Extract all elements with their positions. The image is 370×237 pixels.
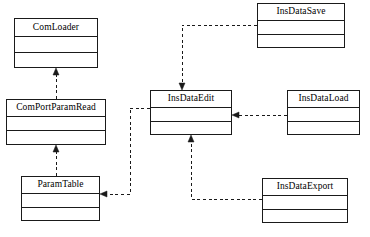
- class-name-com-loader: ComLoader: [15, 19, 97, 37]
- class-attributes-ins-data-save: [258, 21, 344, 35]
- class-operations-ins-data-edit: [151, 122, 231, 135]
- uml-class-ins-data-edit[interactable]: InsDataEdit: [150, 90, 232, 135]
- uml-class-ins-data-load[interactable]: InsDataLoad: [287, 90, 360, 135]
- class-operations-ins-data-export: [263, 210, 347, 223]
- class-name-param-table: ParamTable: [22, 177, 99, 194]
- class-name-ins-data-export: InsDataExport: [263, 179, 347, 196]
- class-operations-ins-data-save: [258, 35, 344, 48]
- class-operations-ins-data-load: [288, 122, 359, 135]
- class-name-ins-data-save: InsDataSave: [258, 4, 344, 21]
- uml-class-ins-data-export[interactable]: InsDataExport: [262, 178, 348, 223]
- uml-class-param-table[interactable]: ParamTable: [21, 176, 100, 221]
- edge-insdataedit-to-paramtable: [100, 108, 150, 197]
- edge-comportparamread-to-comloader: [53, 68, 59, 99]
- edge-insdatasave-to-insdataedit-arrowhead: [179, 83, 185, 90]
- class-operations-com-loader: [15, 53, 97, 68]
- class-attributes-ins-data-load: [288, 108, 359, 122]
- class-operations-com-port-param-read: [7, 131, 105, 144]
- edge-insdatasave-to-insdataedit: [179, 25, 257, 90]
- uml-class-diagram: ComLoaderComPortParamReadParamTableInsDa…: [0, 0, 370, 237]
- edge-paramtable-to-comportparamread-arrowhead: [53, 145, 59, 152]
- uml-class-com-port-param-read[interactable]: ComPortParamRead: [6, 99, 106, 145]
- edge-insdataexport-to-insdataedit: [188, 135, 262, 199]
- edge-insdataload-to-insdataedit-arrowhead: [232, 112, 239, 118]
- class-attributes-param-table: [22, 194, 99, 208]
- edge-insdataexport-to-insdataedit-arrowhead: [188, 135, 194, 142]
- edge-paramtable-to-comportparamread: [53, 145, 59, 176]
- class-name-com-port-param-read: ComPortParamRead: [7, 100, 105, 117]
- class-operations-param-table: [22, 208, 99, 221]
- class-name-ins-data-edit: InsDataEdit: [151, 91, 231, 108]
- class-attributes-com-loader: [15, 37, 97, 53]
- uml-class-com-loader[interactable]: ComLoader: [14, 18, 98, 68]
- uml-class-ins-data-save[interactable]: InsDataSave: [257, 3, 345, 48]
- class-attributes-com-port-param-read: [7, 117, 105, 131]
- class-attributes-ins-data-edit: [151, 108, 231, 122]
- class-name-ins-data-load: InsDataLoad: [288, 91, 359, 108]
- class-attributes-ins-data-export: [263, 196, 347, 210]
- edge-insdataedit-to-paramtable-arrowhead: [100, 191, 107, 197]
- edge-comportparamread-to-comloader-arrowhead: [53, 68, 59, 75]
- edge-insdataload-to-insdataedit: [232, 112, 287, 118]
